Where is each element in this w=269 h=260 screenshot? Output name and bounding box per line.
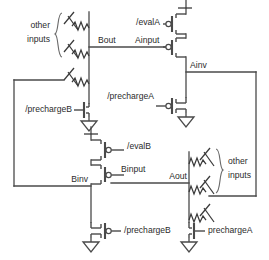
gate-label-precharge-b-pulldown: /prechargeB bbox=[25, 104, 72, 114]
transistor-ainput bbox=[163, 38, 186, 57]
other-inputs-brace-bottom bbox=[216, 149, 223, 193]
gate-label-precharge-a-pulldown: prechargeA bbox=[208, 225, 253, 235]
gate-label-eval-a: /evalA bbox=[136, 17, 160, 27]
pdn-b-branch-3 bbox=[64, 68, 89, 86]
net-label-aout: Aout bbox=[169, 171, 187, 181]
net-label-bout: Bout bbox=[98, 35, 116, 45]
transistor-eval-b bbox=[91, 134, 124, 160]
schematic-canvas: other inputs Bout /prechargeB /evalA bbox=[0, 0, 269, 260]
pdn-b-branch-2 bbox=[64, 40, 89, 58]
transistor-pulldown-a bbox=[189, 222, 205, 239]
net-label-binput: Binput bbox=[121, 164, 146, 174]
pdn-a-branch-1 bbox=[189, 148, 214, 166]
gate-label-eval-b: /evalB bbox=[127, 141, 151, 151]
other-inputs-label-bottom-line1: other bbox=[228, 156, 248, 166]
ground-symbol-a-pulldown bbox=[181, 238, 197, 252]
pdn-b-branch-1 bbox=[64, 12, 89, 30]
transistor-binput bbox=[91, 165, 124, 184]
pdn-a-branch-2 bbox=[189, 176, 214, 194]
gate-label-precharge-b-inverter: /prechargeB bbox=[124, 225, 171, 235]
transistor-precharge-a-inverter bbox=[156, 97, 186, 114]
ground-symbol-b-pulldown bbox=[81, 117, 97, 131]
ground-symbol-a-inverter bbox=[178, 113, 194, 127]
transistor-pulldown-b bbox=[74, 102, 89, 118]
pdn-a-branch-3 bbox=[189, 204, 214, 222]
net-label-ainv: Ainv bbox=[190, 60, 207, 70]
net-label-ainput: Ainput bbox=[135, 35, 160, 45]
gate-label-precharge-a-inverter: /prechargeA bbox=[107, 91, 154, 101]
circuit-schematic: other inputs Bout /prechargeB /evalA bbox=[0, 0, 269, 260]
other-inputs-label-top-line1: other bbox=[30, 20, 50, 30]
other-inputs-brace-top bbox=[55, 13, 62, 57]
transistor-precharge-b-inverter bbox=[91, 222, 121, 239]
other-inputs-label-bottom-line2: inputs bbox=[228, 170, 251, 180]
net-label-binv: Binv bbox=[71, 174, 88, 184]
transistor-eval-a bbox=[163, 8, 186, 34]
ground-symbol-b-inverter bbox=[83, 238, 99, 252]
other-inputs-label-top-line2: inputs bbox=[27, 34, 50, 44]
